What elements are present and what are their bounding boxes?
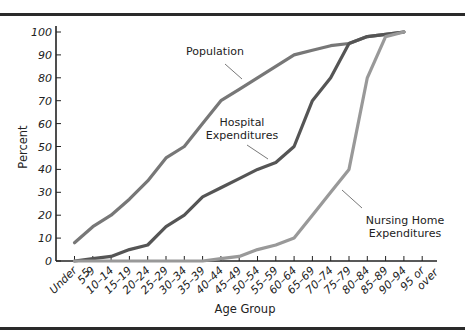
annotation-label: Expenditures (206, 129, 279, 142)
y-tick-label: 100 (31, 26, 52, 39)
series-line-nursing-home-expenditures (75, 32, 404, 261)
x-axis: Under55–910–1415–1920–2425–2930–3435–394… (47, 256, 442, 304)
y-axis: 0102030405060708090100 (31, 26, 61, 268)
line-chart: 0102030405060708090100 Under55–910–1415–… (0, 0, 469, 331)
y-axis-title: Percent (16, 125, 30, 169)
y-tick-label: 70 (38, 95, 52, 108)
y-tick-label: 40 (38, 163, 52, 176)
y-tick-label: 20 (38, 209, 52, 222)
annotation-label: Hospital (220, 116, 265, 129)
x-tick-label: 95 orover (398, 257, 442, 301)
y-tick-label: 90 (38, 49, 52, 62)
series-lines (75, 32, 404, 261)
y-tick-label: 0 (45, 255, 52, 268)
annotation-leader-line (342, 190, 362, 208)
y-tick-label: 10 (38, 232, 52, 245)
y-tick-label: 30 (38, 186, 52, 199)
annotation-label: Nursing Home (366, 214, 445, 227)
annotation-leader-line (225, 64, 242, 79)
annotation-leader-line (247, 145, 268, 159)
y-tick-label: 50 (38, 141, 52, 154)
annotation-label: Expenditures (369, 227, 442, 240)
annotation-label: Population (186, 45, 244, 58)
x-axis-title: Age Group (215, 302, 276, 316)
y-tick-label: 60 (38, 118, 52, 131)
y-tick-label: 80 (38, 72, 52, 85)
